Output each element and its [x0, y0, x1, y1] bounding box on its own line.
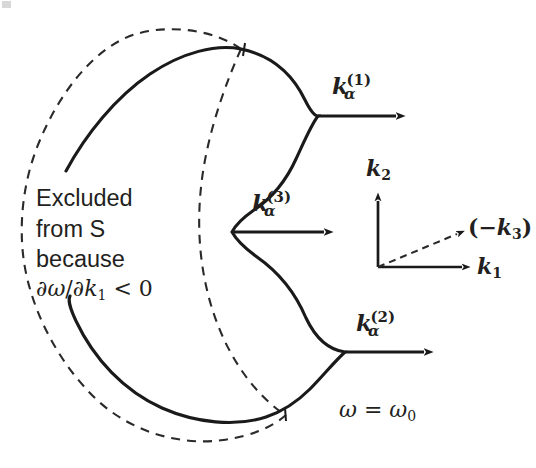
neg-k3-axis-arrow — [378, 234, 457, 267]
excluded-note-condition: ∂ω/∂k1 < 0 — [36, 275, 226, 304]
wavevector-surface-figure: kα(1) kα(3) kα(2) k2 k1 (−k3) ω = ω0 Exc… — [0, 0, 536, 468]
neg-k3-axis-label: (−k3) — [468, 216, 532, 241]
excluded-region-note: Excluded from S because ∂ω/∂k1 < 0 — [36, 183, 226, 304]
excluded-note-line-2: from S — [36, 214, 226, 245]
coordinate-axes-inset — [378, 201, 462, 267]
wavevector-arrows — [232, 116, 424, 352]
k-alpha-3-label: kα(3) — [252, 190, 291, 219]
excluded-note-line-3: because — [36, 244, 226, 275]
k-alpha-2-label: kα(2) — [356, 310, 395, 339]
excluded-note-line-1: Excluded — [36, 183, 226, 214]
frequency-contour-label: ω = ω0 — [339, 399, 416, 423]
k-alpha-1-label: kα(1) — [332, 73, 371, 102]
k2-axis-label: k2 — [366, 157, 391, 182]
k1-axis-label: k1 — [477, 255, 502, 280]
